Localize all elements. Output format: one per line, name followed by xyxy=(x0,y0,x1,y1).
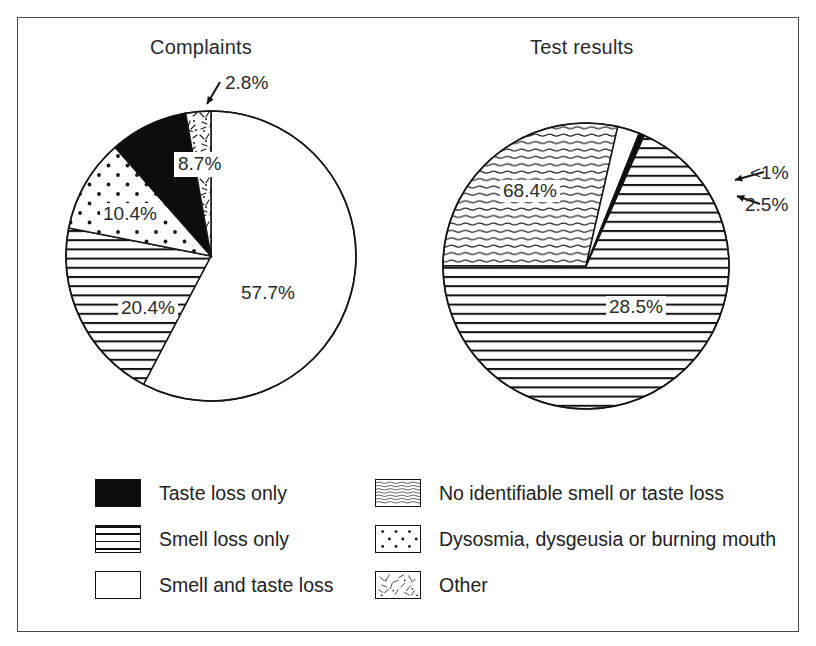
swatch-dots-icon xyxy=(375,525,421,553)
swatch-solid-black-icon xyxy=(95,479,141,507)
legend-item-taste-loss-only: Taste loss only xyxy=(95,470,395,516)
legend-label-other: Other xyxy=(439,574,488,597)
legend-item-no-identifiable-loss: No identifiable smell or taste loss xyxy=(375,470,795,516)
swatch-wavy-lines-icon xyxy=(375,479,421,507)
figure-root: Complaints 57.7% 20.4% 10.4% 8.7% 2.8% T… xyxy=(0,0,816,646)
slice-label-smell-loss-only-test: 68.4% xyxy=(500,180,560,202)
legend-label-taste-loss-only: Taste loss only xyxy=(159,482,287,505)
slice-label-no-identifiable-loss: 28.5% xyxy=(606,296,666,318)
legend-item-other: Other xyxy=(375,562,795,608)
legend-column-right: No identifiable smell or taste loss xyxy=(375,470,795,608)
legend: Taste loss only Smell loss only Smell an… xyxy=(40,470,780,610)
legend-label-no-identifiable-loss: No identifiable smell or taste loss xyxy=(439,482,724,505)
legend-item-dysosmia: Dysosmia, dysgeusia or burning mouth xyxy=(375,516,795,562)
swatch-horizontal-lines-icon xyxy=(95,525,141,553)
swatch-speckle-icon xyxy=(375,571,421,599)
legend-column-left: Taste loss only Smell loss only Smell an… xyxy=(95,470,395,608)
legend-label-smell-and-taste-loss: Smell and taste loss xyxy=(159,574,334,597)
swatch-white-icon xyxy=(95,571,141,599)
legend-item-smell-loss-only: Smell loss only xyxy=(95,516,395,562)
slice-label-taste-loss-only-test: <1% xyxy=(750,162,789,184)
legend-label-dysosmia: Dysosmia, dysgeusia or burning mouth xyxy=(439,528,776,551)
legend-item-smell-and-taste-loss: Smell and taste loss xyxy=(95,562,395,608)
slice-label-smell-and-taste-loss-test: 2.5% xyxy=(745,194,788,216)
legend-label-smell-loss-only: Smell loss only xyxy=(159,528,289,551)
